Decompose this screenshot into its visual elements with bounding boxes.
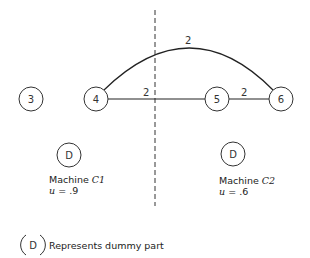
diagram-canvas: 2 2 2 3 4 5 6 D D D [0,0,310,258]
node-5: 5 [205,87,229,111]
edge-4-6-arc [104,48,273,90]
machine-c2-caption: Machine C2 u = .6 [219,175,275,197]
edge-4-6-weight: 2 [185,35,191,46]
node-6: 6 [269,87,293,111]
svg-text:5: 5 [214,94,220,105]
dummy-node-c1: D [57,143,81,167]
machine-c1-utilization: u = .9 [49,185,105,196]
edge-5-6-weight: 2 [241,87,247,98]
machine-c1-symbol: C1 [92,174,105,185]
machine-c1-name: Machine C1 [49,174,105,185]
svg-text:3: 3 [28,94,34,105]
legend-text: Represents dummy part [49,240,164,251]
machine-c2-name: Machine C2 [219,175,275,186]
machine-c1-caption: Machine C1 u = .9 [49,174,105,196]
dummy-node-c2: D [221,142,245,166]
machine-c2-utilization: u = .6 [219,186,275,197]
edge-4-5-weight: 2 [143,87,149,98]
svg-text:D: D [229,149,237,160]
svg-text:4: 4 [93,94,99,105]
machine-c2-symbol: C2 [262,175,275,186]
node-3: 3 [19,87,43,111]
svg-text:6: 6 [278,94,284,105]
svg-text:D: D [65,150,73,161]
svg-text:D: D [29,240,37,251]
node-4: 4 [84,87,108,111]
legend-dummy-symbol: D [21,235,46,255]
